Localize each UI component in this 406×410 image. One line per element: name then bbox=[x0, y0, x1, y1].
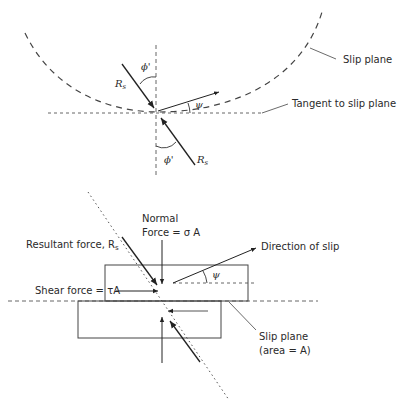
bottom-panel: Normal Force = σ A Resultant force, Rs D… bbox=[8, 192, 339, 400]
tangent-leader bbox=[262, 104, 288, 113]
normal-force-label-line2: Force = σ A bbox=[142, 227, 200, 238]
rs-lower-label: Rs bbox=[196, 154, 209, 167]
slip-plane-label-bottom-line1: Slip plane bbox=[259, 331, 308, 342]
psi-label-bottom: ψ bbox=[212, 269, 220, 280]
psi-label: ψ bbox=[195, 99, 203, 110]
resultant-force-label: Resultant force, Rs bbox=[26, 239, 119, 252]
phi-lower-arc bbox=[156, 142, 176, 148]
slip-plane-label-bottom-line2: (area = A) bbox=[259, 345, 311, 356]
psi-arc-bottom bbox=[203, 271, 207, 283]
resultant-force-arrow bbox=[122, 237, 157, 285]
direction-of-slip-label: Direction of slip bbox=[261, 241, 339, 252]
reaction-resultant-arrow bbox=[170, 321, 200, 362]
slip-plane-diagram: Slip plane Tangent to slip plane Rs ϕ' ψ… bbox=[0, 0, 406, 410]
normal-force-label-line1: Normal bbox=[142, 213, 178, 224]
psi-arc bbox=[188, 103, 190, 113]
shear-force-label: Shear force = τA bbox=[35, 285, 120, 296]
slip-direction-arrow bbox=[158, 92, 219, 111]
phi-upper-arc bbox=[140, 77, 156, 84]
upper-block bbox=[105, 265, 248, 301]
phi-lower-label: ϕ' bbox=[164, 154, 174, 165]
slip-plane-leader-bottom bbox=[229, 302, 256, 330]
lower-block bbox=[78, 301, 221, 338]
tangent-label: Tangent to slip plane bbox=[291, 98, 396, 109]
slip-plane-label: Slip plane bbox=[343, 54, 392, 65]
phi-upper-label: ϕ' bbox=[141, 61, 151, 72]
slip-plane-arc bbox=[25, 12, 322, 112]
slip-plane-leader bbox=[310, 48, 336, 59]
rs-upper-label: Rs bbox=[114, 78, 127, 91]
top-panel: Slip plane Tangent to slip plane Rs ϕ' ψ… bbox=[25, 12, 396, 175]
